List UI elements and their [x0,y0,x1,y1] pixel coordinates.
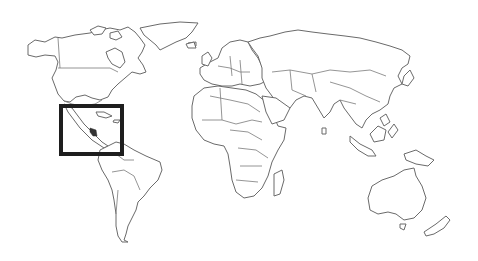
continent-australia [368,168,426,230]
new-zealand [424,216,450,236]
central-america [64,104,120,148]
continent-north-america [28,26,146,106]
world-map [0,0,478,261]
continent-asia [248,30,414,134]
continent-south-america [98,142,162,242]
